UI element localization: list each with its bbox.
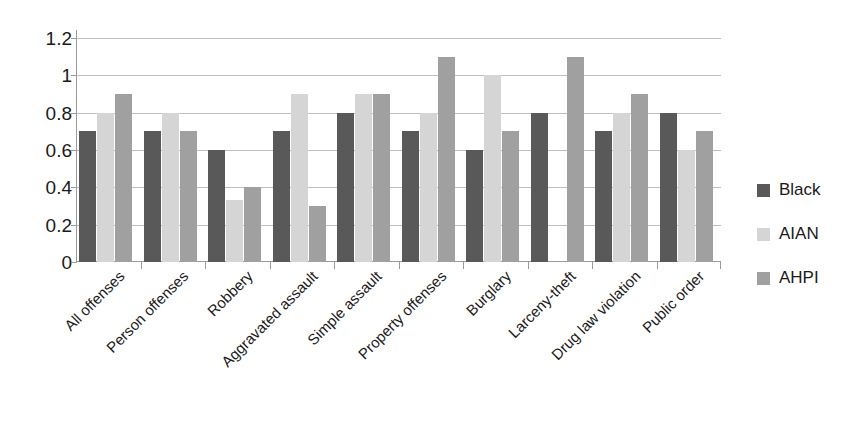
- bar-group: [141, 38, 206, 262]
- bar-group: [657, 38, 722, 262]
- y-tick-label: 0.2: [14, 215, 72, 234]
- legend-label: Black: [779, 180, 821, 200]
- bar: [420, 113, 437, 262]
- chart-legend: BlackAIANAHPI: [757, 168, 853, 300]
- legend-item[interactable]: Black: [757, 168, 853, 212]
- bar: [226, 200, 243, 262]
- bar: [115, 94, 132, 262]
- bar-group: [76, 38, 141, 262]
- y-tickmark: [71, 113, 77, 114]
- bar: [484, 75, 501, 262]
- x-axis-category-label: Public order: [640, 268, 708, 336]
- bar: [373, 94, 390, 262]
- bar: [678, 150, 695, 262]
- bar-group: [205, 38, 270, 262]
- bar: [502, 131, 519, 262]
- bar: [291, 94, 308, 262]
- bar-group: [334, 38, 399, 262]
- y-axis-label-group: 1.210.80.60.40.20: [14, 30, 72, 262]
- bar-chart: 1.210.80.60.40.20 All offensesPerson off…: [0, 0, 855, 441]
- bar: [613, 113, 630, 262]
- bar: [402, 131, 419, 262]
- bar-group: [463, 38, 528, 262]
- bar: [631, 94, 648, 262]
- y-tick-label: 0.4: [14, 178, 72, 197]
- bar-groups: [76, 38, 721, 262]
- y-tickmark: [71, 75, 77, 76]
- bar-group: [399, 38, 464, 262]
- bar: [337, 113, 354, 262]
- y-tickmark: [71, 38, 77, 39]
- bar: [97, 113, 114, 262]
- bar: [466, 150, 483, 262]
- bar-group: [270, 38, 335, 262]
- x-axis-category-label: Burglary: [464, 268, 515, 319]
- y-tickmark: [71, 262, 77, 263]
- y-tickmark: [71, 225, 77, 226]
- bar: [208, 150, 225, 262]
- bar: [162, 113, 179, 262]
- y-tick-label: 0.6: [14, 141, 72, 160]
- legend-item[interactable]: AIAN: [757, 212, 853, 256]
- bar: [144, 131, 161, 262]
- legend-label: AIAN: [779, 224, 819, 244]
- x-axis-category-label: Robbery: [205, 268, 256, 319]
- bar: [531, 113, 548, 262]
- bar: [244, 187, 261, 262]
- bar: [355, 94, 372, 262]
- y-tick-label: 0.8: [14, 103, 72, 122]
- bar-group: [592, 38, 657, 262]
- bar-group: [528, 38, 593, 262]
- y-tick-label: 1: [14, 66, 72, 85]
- bar: [438, 57, 455, 262]
- plot-area: [76, 38, 721, 262]
- legend-swatch-aian: [757, 228, 770, 241]
- bar: [180, 131, 197, 262]
- bar: [79, 131, 96, 262]
- y-tick-label: 1.2: [14, 29, 72, 48]
- x-axis-category-labels: All offensesPerson offensesRobberyAggrav…: [76, 268, 721, 418]
- x-axis-category-label: All offenses: [61, 268, 127, 334]
- bar: [309, 206, 326, 262]
- legend-swatch-ahpi: [757, 272, 770, 285]
- legend-swatch-black: [757, 184, 770, 197]
- bar: [567, 57, 584, 262]
- legend-label: AHPI: [779, 268, 819, 288]
- y-tickmark: [71, 150, 77, 151]
- legend-item[interactable]: AHPI: [757, 256, 853, 300]
- bar: [696, 131, 713, 262]
- y-tick-label: 0: [14, 253, 72, 272]
- y-tickmark: [71, 187, 77, 188]
- bar: [660, 113, 677, 262]
- bar: [273, 131, 290, 262]
- bar: [595, 131, 612, 262]
